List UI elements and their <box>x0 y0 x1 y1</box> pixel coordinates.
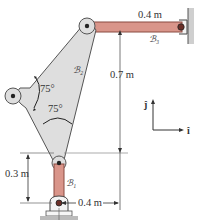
plate-b2: ℬ₂ 75° 75° <box>5 18 96 170</box>
unit-vector-axes: ĵ î <box>143 99 190 136</box>
dim-0-3m-label: 0.3 m <box>5 168 29 179</box>
angle-bottom-label: 75° <box>48 103 63 114</box>
dim-0-4m-bottom-label: 0.4 m <box>78 197 102 208</box>
i-unit-label: î <box>186 125 190 136</box>
b1-label: ℬ₁ <box>66 178 76 188</box>
dim-0-7m-label: 0.7 m <box>110 69 134 80</box>
b2-label: ℬ₂ <box>73 65 83 75</box>
dimension-0-3m: 0.3 m <box>5 153 54 203</box>
mechanism-figure: ℬ₂ 75° 75° ℬ₁ 0.3 m <box>0 0 211 220</box>
b3-length-label: 0.4 m <box>138 9 162 20</box>
angle-top-label: 75° <box>40 83 55 94</box>
j-unit-label: ĵ <box>143 99 148 110</box>
link-b3 <box>88 22 184 32</box>
mechanism-diagram: ℬ₂ 75° 75° ℬ₁ 0.3 m <box>0 0 211 220</box>
b3-label: ℬ₃ <box>149 34 159 44</box>
